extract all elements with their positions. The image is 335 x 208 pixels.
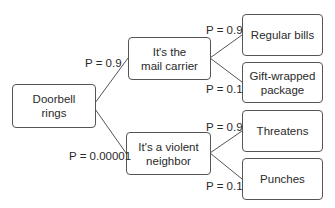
- node-punches: Punches: [242, 158, 323, 200]
- node-regular-bills: Regular bills: [242, 14, 323, 56]
- node-mail-carrier: It's the mail carrier: [128, 37, 211, 80]
- prob-regular-bills: P = 0.9: [206, 24, 243, 36]
- node-threatens: Threatens: [242, 110, 323, 152]
- edge-root-to-violent-neighbor: [95, 109, 126, 153]
- prob-mail-carrier: P = 0.9: [85, 57, 122, 69]
- prob-violent-neighbor: P = 0.00001: [69, 150, 131, 162]
- node-violent-neighbor: It's a violent neighbor: [126, 132, 211, 175]
- edge-mail-to-regular-bills: [210, 35, 242, 58]
- edge-neighbor-to-threatens: [210, 131, 242, 153]
- node-gift-wrapped-package: Gift-wrapped package: [242, 62, 323, 103]
- edge-mail-to-gift-package: [210, 58, 242, 82]
- prob-gift-wrapped-package: P = 0.1: [206, 83, 243, 95]
- prob-punches: P = 0.1: [206, 180, 243, 192]
- node-doorbell-rings: Doorbell rings: [12, 84, 96, 128]
- edge-neighbor-to-punches: [210, 153, 242, 179]
- prob-threatens: P = 0.9: [206, 121, 243, 133]
